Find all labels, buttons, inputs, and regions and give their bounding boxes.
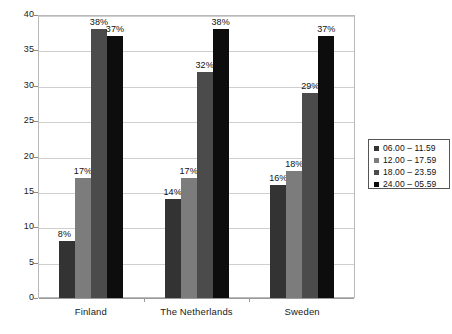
- bar: [181, 178, 197, 298]
- bar: [213, 29, 229, 298]
- bars-layer: 8%17%38%37%14%17%32%38%16%18%29%37%: [38, 15, 355, 298]
- x-axis-category-label: Finland: [31, 306, 151, 317]
- y-axis-tick-label: 35: [4, 45, 34, 54]
- y-axis-tick-mark: [34, 298, 38, 299]
- bar: [286, 171, 302, 298]
- legend-item: 12.00 – 17.59: [374, 155, 445, 166]
- y-axis-tick-label: 30: [4, 81, 34, 90]
- y-axis-tick-label: 40: [4, 10, 34, 19]
- bar-value-label: 29%: [301, 82, 319, 91]
- bar: [107, 36, 123, 298]
- bar-value-label: 38%: [212, 18, 230, 27]
- legend-item-label: 06.00 – 11.59: [383, 144, 436, 153]
- bar-value-label: 8%: [58, 230, 71, 239]
- y-axis-tick-label: 25: [4, 116, 34, 125]
- bar-value-label: 37%: [317, 25, 335, 34]
- y-axis-tick-mark: [34, 15, 38, 16]
- y-axis-tick-mark: [34, 227, 38, 228]
- y-axis: 0510152025303540: [0, 0, 34, 334]
- y-axis-tick-mark: [34, 192, 38, 193]
- y-axis-tick-label: 5: [4, 258, 34, 267]
- chart-page: 0510152025303540 8%17%38%37%14%17%32%38%…: [0, 0, 452, 334]
- y-axis-tick-mark: [34, 157, 38, 158]
- gridline: [39, 298, 354, 299]
- bar: [302, 93, 318, 298]
- x-axis-tick-mark: [144, 298, 145, 302]
- legend-item-label: 24.00 – 05.59: [383, 180, 436, 189]
- y-axis-tick-label: 20: [4, 152, 34, 161]
- y-axis-tick-label: 10: [4, 222, 34, 231]
- y-axis-tick-mark: [34, 263, 38, 264]
- bar-value-label: 17%: [74, 167, 92, 176]
- bar: [165, 199, 181, 298]
- x-axis-tick-mark: [249, 298, 250, 302]
- legend-item: 24.00 – 05.59: [374, 179, 445, 190]
- legend-item-label: 12.00 – 17.59: [383, 156, 436, 165]
- bar: [318, 36, 334, 298]
- y-axis-tick-label: 15: [4, 187, 34, 196]
- bar: [270, 185, 286, 298]
- bar-value-label: 18%: [285, 160, 303, 169]
- bar-value-label: 32%: [196, 61, 214, 70]
- bar-value-label: 14%: [164, 188, 182, 197]
- legend-item: 18.00 – 23.59: [374, 167, 445, 178]
- chart-legend: 06.00 – 11.5912.00 – 17.5918.00 – 23.592…: [368, 139, 450, 189]
- legend-item-label: 18.00 – 23.59: [383, 168, 436, 177]
- bar-value-label: 37%: [106, 25, 124, 34]
- x-axis-category-label: The Netherlands: [137, 306, 257, 317]
- y-axis-tick-mark: [34, 50, 38, 51]
- legend-item: 06.00 – 11.59: [374, 143, 445, 154]
- y-axis-tick-label: 0: [4, 293, 34, 302]
- bar: [197, 72, 213, 298]
- legend-swatch-icon: [374, 170, 379, 175]
- legend-swatch-icon: [374, 158, 379, 163]
- legend-swatch-icon: [374, 146, 379, 151]
- x-axis-category-label: Sweden: [242, 306, 362, 317]
- y-axis-tick-mark: [34, 86, 38, 87]
- bar-value-label: 16%: [269, 174, 287, 183]
- bar: [91, 29, 107, 298]
- legend-swatch-icon: [374, 182, 379, 187]
- bar-value-label: 17%: [180, 167, 198, 176]
- bar: [59, 241, 75, 298]
- bar: [75, 178, 91, 298]
- y-axis-tick-mark: [34, 121, 38, 122]
